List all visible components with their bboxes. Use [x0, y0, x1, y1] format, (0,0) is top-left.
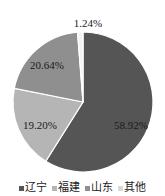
- label-fujian: 19.20%: [23, 119, 57, 131]
- legend-swatch-icon: [19, 186, 24, 191]
- legend-label: 其他: [124, 181, 146, 193]
- legend-item-other: 其他: [118, 178, 146, 194]
- legend-swatch-icon: [85, 186, 90, 191]
- pie-chart: [0, 0, 165, 196]
- legend-item-liaoning: 辽宁: [19, 178, 47, 194]
- legend-label: 福建: [58, 181, 80, 193]
- legend-label: 山东: [91, 181, 113, 193]
- legend-label: 辽宁: [25, 181, 47, 193]
- label-shandong: 20.64%: [30, 59, 64, 71]
- legend-item-shandong: 山东: [85, 178, 113, 194]
- legend-swatch-icon: [52, 186, 57, 191]
- label-other: 1.24%: [74, 17, 102, 29]
- legend-item-fujian: 福建: [52, 178, 80, 194]
- legend-swatch-icon: [118, 186, 123, 191]
- chart-legend: 辽宁 福建 山东 其他: [0, 178, 165, 194]
- label-liaoning: 58.92%: [114, 119, 148, 131]
